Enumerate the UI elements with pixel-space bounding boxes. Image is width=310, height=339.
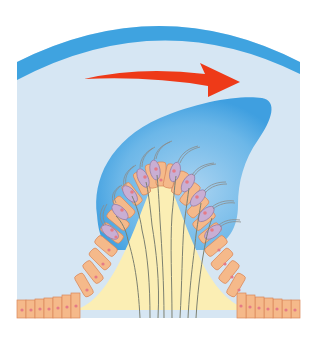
crista-ampullaris-diagram [0, 0, 310, 339]
illustration [0, 0, 310, 339]
